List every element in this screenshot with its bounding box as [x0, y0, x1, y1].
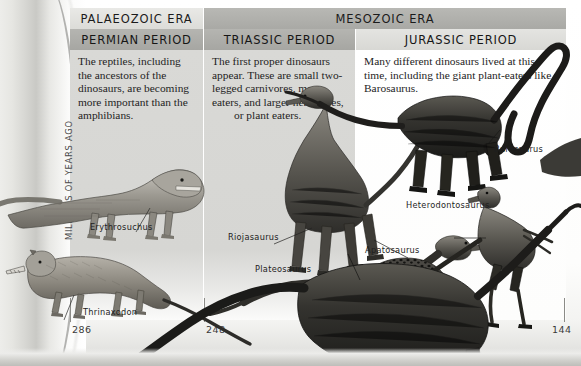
- species-label-barosaurus: Barosaurus: [494, 144, 543, 154]
- era-palaeozoic-label: PALAEOZOIC ERA: [80, 12, 192, 26]
- triassic-description-last: or plant eaters.: [212, 109, 347, 123]
- era-mesozoic-label: MESOZOIC ERA: [335, 12, 434, 26]
- axis-label-286: 286: [72, 324, 91, 335]
- period-jurassic: JURASSIC PERIOD: [356, 29, 566, 50]
- species-label-thrinaxodon: Thrinaxodon: [83, 307, 137, 317]
- permian-description: The reptiles, including the ancestors of…: [70, 50, 203, 123]
- column-triassic: The first proper dinosaurs appear. These…: [204, 50, 356, 320]
- axis-caption-millions-of-years-ago: MILLIONS OF YEARS AGO: [64, 120, 74, 240]
- axis-label-144: 144: [552, 324, 571, 335]
- scanned-book-page: PALAEOZOIC ERA MESOZOIC ERA PERMIAN PERI…: [0, 0, 581, 366]
- jurassic-description: Many different dinosaurs lived at this t…: [356, 50, 566, 96]
- axis-tick-208: [357, 298, 358, 322]
- axis-label-248: 248: [206, 324, 225, 335]
- species-label-riojasaurus: Riojasaurus: [228, 232, 279, 242]
- species-label-heterodontosaurus: Heterodontosaurus: [406, 200, 490, 210]
- triassic-description: The first proper dinosaurs appear. These…: [204, 50, 355, 123]
- period-header-row: PERMIAN PERIOD TRIASSIC PERIOD JURASSIC …: [70, 29, 566, 50]
- species-label-apatosaurus: Apatosaurus: [365, 245, 420, 255]
- axis-label-208: 208: [359, 324, 378, 335]
- triassic-description-main: The first proper dinosaurs appear. These…: [212, 55, 347, 109]
- axis-tick-286: [70, 298, 71, 322]
- species-label-erythrosuchus: Erythrosuchus: [90, 222, 152, 232]
- era-mesozoic: MESOZOIC ERA: [204, 8, 566, 29]
- period-triassic-label: TRIASSIC PERIOD: [224, 33, 335, 47]
- period-columns: The reptiles, including the ancestors of…: [70, 50, 566, 320]
- period-permian-label: PERMIAN PERIOD: [81, 33, 191, 47]
- geological-timeline-chart: PALAEOZOIC ERA MESOZOIC ERA PERMIAN PERI…: [70, 8, 566, 344]
- period-triassic: TRIASSIC PERIOD: [204, 29, 356, 50]
- axis-tick-248: [204, 298, 205, 322]
- period-jurassic-label: JURASSIC PERIOD: [405, 33, 517, 47]
- species-label-plateosaurus: Plateosaurus: [255, 264, 311, 274]
- era-palaeozoic: PALAEOZOIC ERA: [70, 8, 204, 29]
- column-permian: The reptiles, including the ancestors of…: [70, 50, 204, 320]
- page-bottom-edge: [0, 348, 581, 366]
- axis-tick-144: [564, 298, 565, 322]
- column-jurassic: Many different dinosaurs lived at this t…: [356, 50, 566, 320]
- timeline-axis: 286 248 208 144: [70, 320, 566, 344]
- period-permian: PERMIAN PERIOD: [70, 29, 204, 50]
- era-header-row: PALAEOZOIC ERA MESOZOIC ERA: [70, 8, 566, 29]
